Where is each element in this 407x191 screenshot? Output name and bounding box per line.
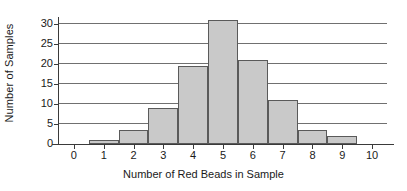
- x-tick-label: 9: [339, 150, 345, 161]
- y-tick-label: 15: [41, 78, 53, 89]
- y-tick-label: 25: [41, 38, 53, 49]
- histogram-bar: [89, 140, 119, 144]
- y-tick-mark: [54, 24, 59, 25]
- x-tick-label: 0: [71, 150, 77, 161]
- y-tick-label: 5: [47, 118, 53, 129]
- histogram-bar: [178, 66, 208, 144]
- x-tick-label: 10: [366, 150, 378, 161]
- y-tick-mark: [54, 44, 59, 45]
- x-tick-label: 8: [309, 150, 315, 161]
- x-tick-label: 7: [280, 150, 286, 161]
- x-tick-label: 1: [101, 150, 107, 161]
- y-axis-tick-labels: 051015202530: [26, 18, 53, 144]
- x-tick-label: 5: [220, 150, 226, 161]
- x-axis-title-text: Number of Red Beads in Sample: [123, 168, 284, 180]
- histogram-bar: [148, 108, 178, 144]
- x-tick-label: 4: [190, 150, 196, 161]
- histogram-bar: [208, 20, 238, 144]
- x-tick-label: 3: [160, 150, 166, 161]
- y-tick-label: 10: [41, 98, 53, 109]
- y-tick-label: 30: [41, 18, 53, 29]
- x-axis-tick-labels: 012345678910: [59, 150, 387, 164]
- y-axis-title-text: Number of Samples: [3, 23, 15, 122]
- y-tick-mark: [54, 64, 59, 65]
- histogram-bar: [268, 100, 298, 144]
- y-tick-label: 20: [41, 58, 53, 69]
- x-tick-label: 6: [250, 150, 256, 161]
- histogram-bar: [119, 130, 149, 144]
- histogram-bar: [327, 136, 357, 144]
- y-tick-mark: [54, 144, 59, 145]
- histogram-figure: Number of Samples 051015202530 012345678…: [0, 0, 407, 191]
- x-axis-title: Number of Red Beads in Sample: [0, 168, 407, 180]
- y-tick-mark: [54, 124, 59, 125]
- histogram-bar: [298, 130, 328, 144]
- histogram-bar: [238, 60, 268, 144]
- plot-area: [59, 18, 387, 144]
- y-axis-title: Number of Samples: [0, 0, 18, 145]
- y-tick-mark: [54, 104, 59, 105]
- y-tick-mark: [54, 84, 59, 85]
- x-tick-label: 2: [130, 150, 136, 161]
